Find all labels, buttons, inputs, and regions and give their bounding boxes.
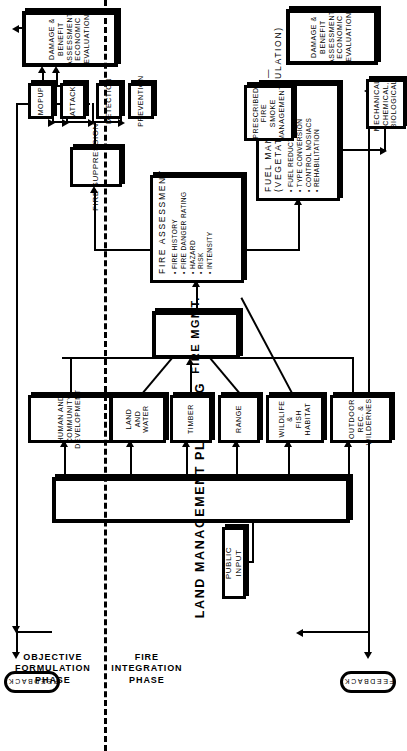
list-item: REHABILITATION xyxy=(313,92,322,192)
prevention-label: PREVENTION xyxy=(137,73,146,129)
list-item: HAZARD xyxy=(189,184,198,274)
node-timber[interactable]: TIMBER xyxy=(170,395,212,443)
node-detection[interactable]: DETECTION xyxy=(96,83,122,119)
node-public-input[interactable]: PUBLIC INPUT xyxy=(222,527,246,599)
fire-mgmt-label: FIRE MGMT. xyxy=(189,294,203,376)
connector-planning-to-range xyxy=(236,443,238,477)
connector-bottom-rail-rise xyxy=(300,631,368,633)
node-wildlife-fish-habitat[interactable]: WILDLIFE & FISH HABITAT xyxy=(266,395,324,443)
arrow-into-planning-top xyxy=(12,626,20,633)
node-mopup[interactable]: MOPUP xyxy=(28,83,54,119)
connector-planning-to-outdoor xyxy=(348,443,350,477)
list-item: FIRE DANGER RATING xyxy=(180,184,189,274)
list-item: FIRE HISTORY xyxy=(171,184,180,274)
connector-planning-to-land-water xyxy=(130,443,132,477)
connector-bottom-rail-objective xyxy=(368,103,370,633)
list-item: RISK xyxy=(197,184,206,274)
connector-feedback-to-planning-top xyxy=(16,103,18,633)
node-prevention[interactable]: PREVENTION xyxy=(128,83,154,119)
diagram-stage: OBJECTIVE FORMULATION PHASE FIRE INTEGRA… xyxy=(0,0,407,751)
mopup-label: MOPUP xyxy=(37,85,46,118)
connector-assessment-to-fuel xyxy=(298,201,300,251)
damage-benefit-fuel-label: DAMAGE & BENEFIT ASSESSMENT ECONOMIC EVA… xyxy=(310,8,354,66)
arrow-to-mopup xyxy=(48,119,55,127)
feedback-node-bottom: FEEDBACK xyxy=(340,671,396,693)
land-and-water-label: LAND AND WATER xyxy=(125,398,151,440)
phase-caption-fire-integration: FIRE INTEGRATION PHASE xyxy=(87,652,207,686)
mechanical-chemical-biological-label: MECHANICAL, CHEMICAL, BIOLOGICAL xyxy=(373,75,399,133)
human-and-community-development-label: HUMAN AND COMMUNITY DEVELOPMENT xyxy=(57,387,83,451)
figure-page: OBJECTIVE FORMULATION PHASE FIRE INTEGRA… xyxy=(0,0,407,751)
fire-assessment-list: FIRE HISTORY FIRE DANGER RATING HAZARD R… xyxy=(171,184,215,274)
feedback-bottom-label: FEEDBACK xyxy=(343,679,394,686)
node-land-management-planning[interactable]: LAND MANAGEMENT PLANNING xyxy=(52,477,350,523)
arrow-to-mechanical xyxy=(380,147,387,155)
timber-label: TIMBER xyxy=(187,402,196,436)
node-fire-assessment[interactable]: FIRE ASSESSMENT FIRE HISTORY FIRE DANGER… xyxy=(150,175,244,283)
arrow-into-planning-bottom xyxy=(296,629,303,637)
attack-label: ATTACK xyxy=(69,84,78,118)
node-damage-benefit-fuel[interactable]: DAMAGE & BENEFIT ASSESSMENT ECONOMIC EVA… xyxy=(286,9,378,65)
connector-planning-to-wildlife xyxy=(288,443,290,477)
wildlife-fish-habitat-label: WILDLIFE & FISH HABITAT xyxy=(278,398,313,440)
node-fire-suppression[interactable]: FIRE SUPPRESSION xyxy=(70,147,122,187)
list-item: CONTROL MOSIACS xyxy=(305,92,314,192)
outdoor-rec-wilderness-label: OUTDOOR REC. & WILDERNESS xyxy=(348,391,374,447)
arrow-to-prevention xyxy=(118,119,125,127)
list-item: TYPE CONVERSION xyxy=(296,92,305,192)
prescribed-fire-label: PRESCRIBED FIRE SMOKE MANAGEMENT xyxy=(252,83,287,143)
phase-divider-line xyxy=(104,0,107,751)
connector-rail-to-outdoor xyxy=(352,357,354,395)
arrow-to-attack xyxy=(62,119,69,127)
node-land-and-water[interactable]: LAND AND WATER xyxy=(110,395,166,443)
arrow-mopup-into-damage xyxy=(38,66,46,73)
node-attack[interactable]: ATTACK xyxy=(60,83,86,119)
connector-planning-drop-left xyxy=(16,631,52,633)
node-range[interactable]: RANGE xyxy=(218,395,260,443)
fire-assessment-header: FIRE ASSESSMENT xyxy=(157,184,167,274)
node-mechanical-chemical-biological[interactable]: MECHANICAL, CHEMICAL, BIOLOGICAL xyxy=(366,79,406,129)
node-human-and-community-development[interactable]: HUMAN AND COMMUNITY DEVELOPMENT xyxy=(28,395,112,443)
public-input-label: PUBLIC INPUT xyxy=(224,530,244,596)
range-label: RANGE xyxy=(235,403,244,435)
fire-suppression-label: FIRE SUPPRESSION xyxy=(91,121,101,213)
arrow-damage-suppression-up xyxy=(12,25,19,33)
connector-wildlife-diagonal xyxy=(240,298,293,396)
node-outdoor-rec-wilderness[interactable]: OUTDOOR REC. & WILDERNESS xyxy=(330,395,392,443)
node-prescribed-fire[interactable]: PRESCRIBED FIRE SMOKE MANAGEMENT xyxy=(244,85,294,141)
list-item: INTENSITY xyxy=(206,184,215,274)
connector-planning-to-timber xyxy=(186,443,188,477)
node-fire-mgmt[interactable]: FIRE MGMT. xyxy=(152,311,240,359)
arrow-feedback-bottom-out xyxy=(364,652,372,659)
damage-benefit-suppression-label: DAMAGE & BENEFIT ASSESSMENT ECONOMIC EVA… xyxy=(48,10,92,68)
